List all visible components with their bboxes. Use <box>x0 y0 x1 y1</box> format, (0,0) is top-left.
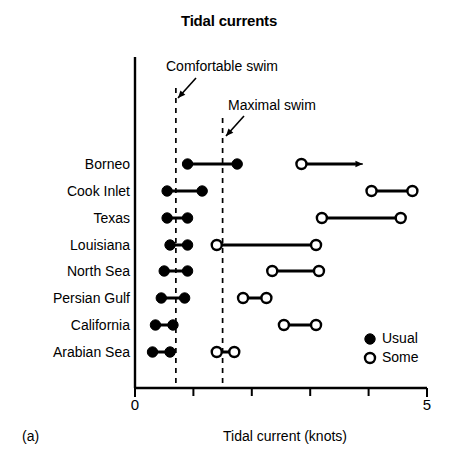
data-point-usual <box>156 293 166 303</box>
data-point-some <box>314 266 324 276</box>
data-point-some <box>311 320 321 330</box>
x-axis-label: Tidal current (knots) <box>135 428 435 444</box>
legend-label-some: Some <box>382 349 419 365</box>
data-point-usual <box>168 320 178 330</box>
annotation-maximal-swim: Maximal swim <box>228 97 316 113</box>
data-point-usual <box>197 186 207 196</box>
data-point-usual <box>182 266 192 276</box>
legend-label-usual: Usual <box>382 330 418 346</box>
data-point-some <box>238 293 248 303</box>
data-point-some <box>367 186 377 196</box>
data-point-some <box>212 240 222 250</box>
data-point-usual <box>182 213 192 223</box>
data-point-usual <box>232 159 242 169</box>
data-point-some <box>279 320 289 330</box>
legend-marker-some <box>365 353 375 363</box>
data-point-some <box>261 293 271 303</box>
data-point-some <box>267 266 277 276</box>
data-point-usual <box>179 293 189 303</box>
figure-panel: Tidal currents BorneoCook InletTexasLoui… <box>0 0 458 468</box>
data-point-some <box>311 240 321 250</box>
legend-marker-usual <box>365 334 375 344</box>
panel-caption: (a) <box>22 428 39 444</box>
data-point-usual <box>162 186 172 196</box>
data-point-usual <box>150 320 160 330</box>
data-point-usual <box>165 347 175 357</box>
data-point-usual <box>162 213 172 223</box>
data-point-usual <box>147 347 157 357</box>
x-tick-label: 5 <box>423 396 431 413</box>
data-point-some <box>317 213 327 223</box>
data-point-usual <box>159 266 169 276</box>
annotation-comfortable-swim: Comfortable swim <box>166 58 278 74</box>
data-point-some <box>296 159 306 169</box>
range-arrow-head <box>355 161 362 168</box>
data-point-some <box>407 186 417 196</box>
data-point-some <box>396 213 406 223</box>
data-point-usual <box>182 240 192 250</box>
data-point-some <box>229 347 239 357</box>
data-point-usual <box>165 240 175 250</box>
data-point-usual <box>182 159 192 169</box>
data-point-some <box>212 347 222 357</box>
x-tick-label: 0 <box>131 396 139 413</box>
